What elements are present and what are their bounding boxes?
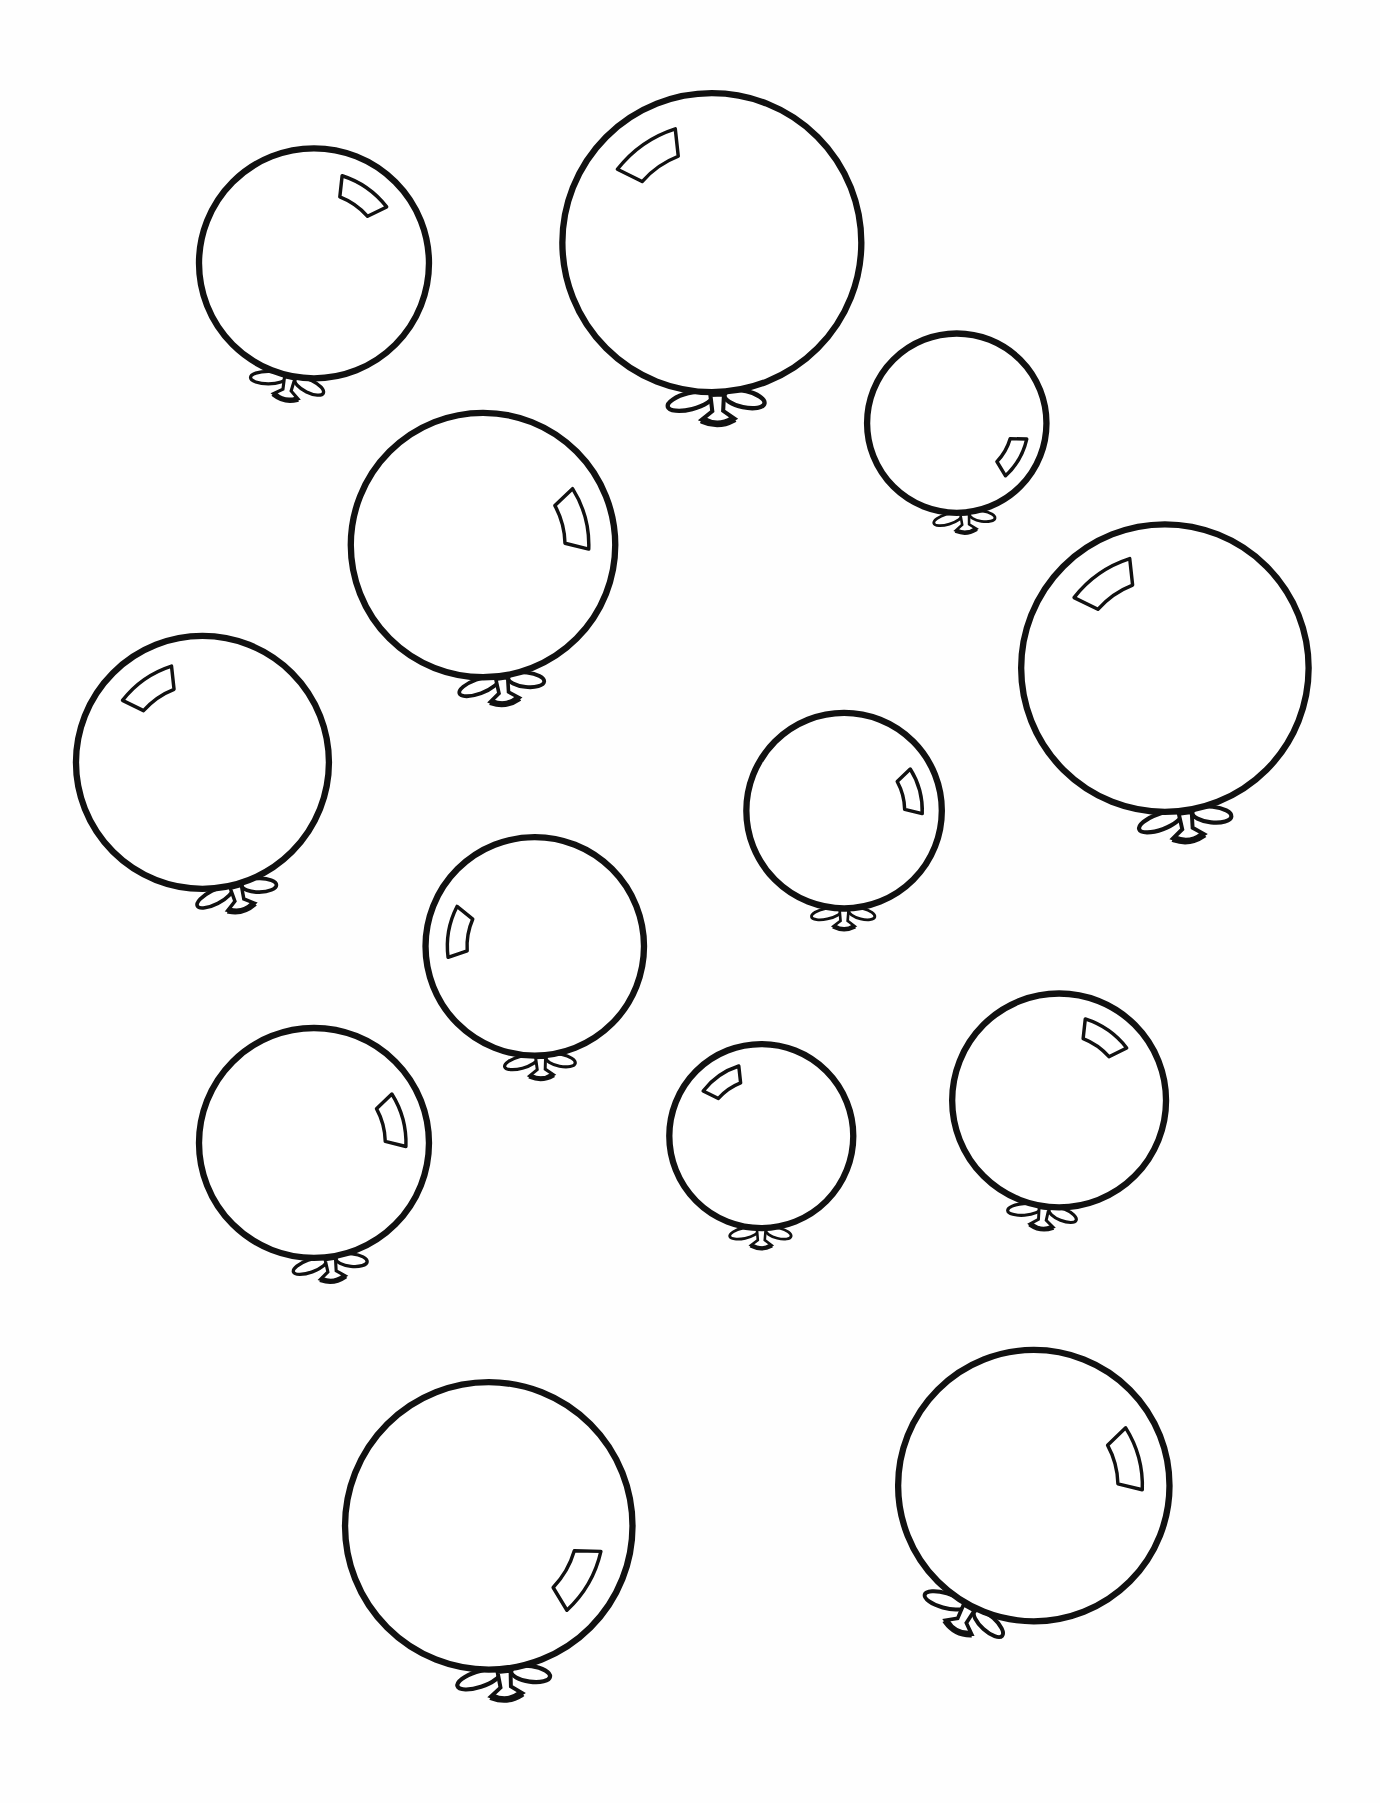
balloon-outline	[952, 993, 1166, 1207]
coloring-page	[0, 0, 1380, 1803]
balloon-drawing	[0, 0, 1380, 1803]
balloon	[867, 333, 1046, 536]
balloon	[199, 148, 429, 409]
balloon	[351, 413, 615, 712]
balloon-outline	[867, 333, 1046, 512]
balloon-outline	[669, 1044, 853, 1228]
balloon-outline	[562, 93, 861, 392]
balloon	[898, 1350, 1169, 1654]
balloon	[199, 1028, 429, 1288]
balloon-outline	[76, 636, 329, 889]
balloon	[746, 713, 941, 931]
balloon	[345, 1382, 632, 1706]
balloon	[952, 993, 1166, 1235]
balloon	[669, 1044, 853, 1250]
balloon	[1021, 524, 1308, 849]
balloon	[76, 636, 329, 924]
balloon-outline	[1021, 524, 1308, 811]
balloon-group	[76, 93, 1309, 1706]
balloon-outline	[345, 1382, 632, 1669]
balloon	[562, 93, 861, 428]
balloon	[426, 837, 644, 1082]
balloon-outline	[199, 148, 429, 378]
